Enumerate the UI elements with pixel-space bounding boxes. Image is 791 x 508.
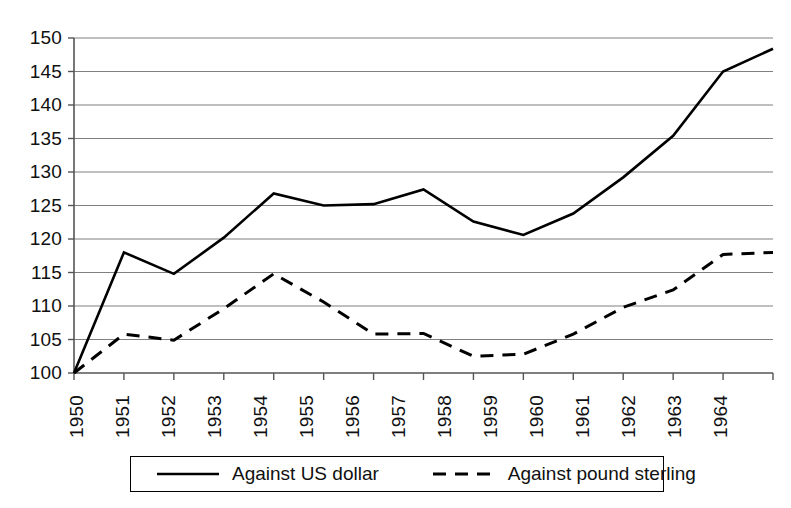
legend-entry-against-us-dollar: Against US dollar — [157, 457, 379, 491]
legend-label-against-us-dollar: Against US dollar — [232, 463, 379, 485]
y-axis-tick-marks — [68, 38, 74, 373]
legend-entry-against-pound-sterling: Against pound sterling — [433, 457, 696, 491]
x-axis-tick-marks — [74, 373, 773, 380]
legend: Against US dollar Against pound sterling — [130, 456, 664, 492]
dashed-line-swatch-icon — [433, 469, 495, 479]
gridlines — [74, 38, 773, 373]
solid-line-swatch-icon — [157, 469, 219, 479]
legend-label-against-pound-sterling: Against pound sterling — [508, 463, 696, 485]
plot-area — [0, 0, 791, 508]
series-line-against-us-dollar — [74, 49, 773, 373]
line-chart: 150 145 140 135 130 125 120 115 110 105 … — [0, 0, 791, 508]
